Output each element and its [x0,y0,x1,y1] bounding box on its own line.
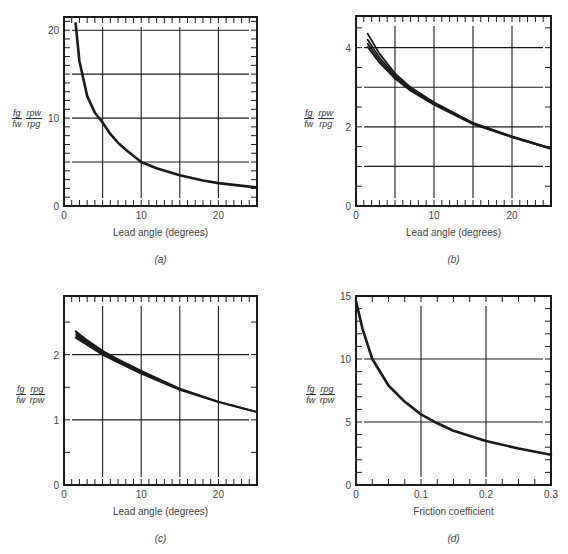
y-tick-label: 0 [345,201,351,212]
x-tick-label: 0 [353,210,359,221]
ylabel-den1: fw [12,119,21,129]
figure-caption: (b) [447,254,459,265]
x-axis-label: Friction coefficient [413,506,494,517]
x-tick-label: 10 [136,489,148,500]
chart-b-svg: 01020024Lead angle (degrees)(b) [284,0,568,270]
ylabel-den1: fw [16,395,25,405]
y-tick-label: 15 [340,291,352,302]
chart-panel-b: 01020024Lead angle (degrees)(b) fgfw rpw… [284,0,568,270]
x-tick-label: 0 [61,489,67,500]
x-axis-label: Lead angle (degrees) [113,227,208,238]
series-curve [356,301,551,455]
x-tick-label: 0 [353,489,359,500]
chart-c-svg: 01020012Lead angle (degrees)(c) [0,270,284,554]
x-axis-label: Lead angle (degrees) [113,506,208,517]
ylabel-den2: rpw [320,395,335,405]
ylabel-num1: fg [12,108,22,119]
ylabel-num1: fg [304,108,314,119]
y-tick-label: 10 [340,354,352,365]
ylabel-num2: rpg [320,384,335,395]
figure-caption: (d) [447,533,459,544]
y-tick-label: 2 [345,122,351,133]
ylabel-num1: fg [306,384,316,395]
x-tick-label: 20 [213,489,225,500]
plot-frame [356,296,551,485]
chart-panel-a: 0102001020Lead angle (degrees)(a) fgfw r… [0,0,284,270]
chart-d-ylabel: fgfw rpgrpw [306,384,335,405]
x-tick-label: 20 [213,210,225,221]
ylabel-den1: fw [306,395,315,405]
ylabel-den2: rpw [30,395,45,405]
ylabel-num2: rpw [318,108,335,119]
y-tick-label: 5 [345,417,351,428]
plot-frame [356,16,551,206]
plot-frame [64,296,257,485]
y-tick-label: 4 [345,43,351,54]
x-tick-label: 0.3 [544,489,558,500]
ylabel-den2: rpg [27,119,40,129]
chart-panel-c: 01020012Lead angle (degrees)(c) fgfw rpg… [0,270,284,554]
x-tick-label: 20 [506,210,518,221]
ylabel-den1: fw [304,119,313,129]
ylabel-num2: rpw [26,108,43,119]
figure-caption: (a) [154,254,166,265]
chart-panel-d: 00.10.20.3051015Friction coefficient(d) … [284,270,568,554]
y-tick-label: 0 [345,480,351,491]
x-tick-label: 0.1 [414,489,428,500]
chart-b-ylabel: fgfw rpwrpg [304,108,334,129]
y-tick-label: 2 [53,350,59,361]
y-tick-label: 1 [53,415,59,426]
chart-a-ylabel: fgfw rpwrpg [12,108,42,129]
x-tick-label: 10 [136,210,148,221]
ylabel-num2: rpg [30,384,45,395]
x-tick-label: 0.2 [479,489,493,500]
chart-a-svg: 0102001020Lead angle (degrees)(a) [0,0,284,270]
y-tick-label: 0 [53,480,59,491]
chart-c-ylabel: fgfw rpgrpw [16,384,45,405]
y-tick-label: 10 [48,113,60,124]
chart-d-svg: 00.10.20.3051015Friction coefficient(d) [284,270,568,554]
ylabel-num1: fg [16,384,26,395]
x-axis-label: Lead angle (degrees) [406,227,501,238]
ylabel-den2: rpg [319,119,332,129]
figure-caption: (c) [155,533,167,544]
y-tick-label: 20 [48,25,60,36]
x-tick-label: 0 [61,210,67,221]
y-tick-label: 0 [53,201,59,212]
x-tick-label: 10 [428,210,440,221]
